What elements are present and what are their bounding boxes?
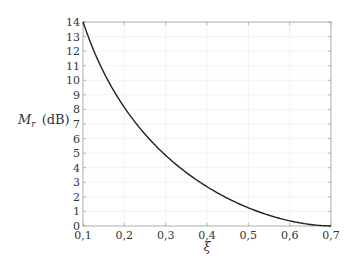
y-tick-label: 6: [73, 133, 80, 146]
resonant-peak-chart: 01234567891011121314 0,10,20,30,40,50,60…: [0, 0, 353, 271]
y-tick-label: 1: [73, 205, 80, 218]
y-tick-label: 14: [66, 16, 80, 29]
y-tick-label: 7: [73, 118, 80, 131]
y-tick-label: 4: [73, 162, 80, 175]
x-tick-label: 0,1: [74, 229, 92, 242]
y-tick-label: 13: [66, 31, 80, 44]
y-tick-label: 12: [66, 45, 80, 58]
y-tick-label: 10: [66, 74, 80, 87]
x-tick-label: 0,7: [322, 229, 340, 242]
y-tick-label: 3: [73, 176, 80, 189]
x-tick-label: 0,2: [116, 229, 134, 242]
x-axis-label: ξ: [203, 239, 211, 254]
y-axis-label: Mr(dB): [17, 112, 70, 129]
y-tick-label: 5: [73, 147, 80, 160]
y-tick-label: 9: [73, 89, 80, 102]
grid-lines: [83, 22, 331, 226]
x-tick-label: 0,5: [240, 229, 258, 242]
x-tick-label: 0,6: [281, 229, 299, 242]
y-tick-label: 8: [73, 103, 80, 116]
x-tick-label: 0,3: [157, 229, 175, 242]
y-tick-label: 2: [73, 191, 80, 204]
y-tick-label: 11: [66, 60, 80, 73]
